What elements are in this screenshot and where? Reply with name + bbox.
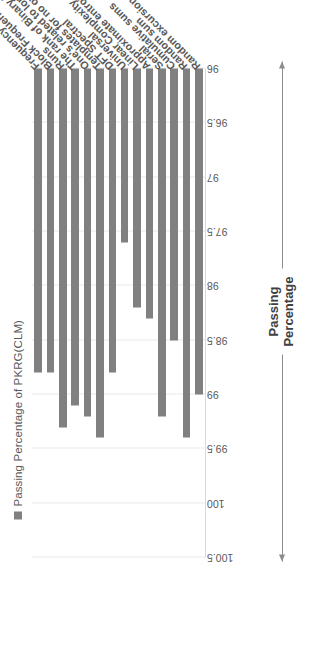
legend-swatch-icon [14,511,22,519]
plot-area [32,68,205,557]
bar [109,68,117,372]
bar [34,68,42,372]
value-axis-tick-label: 100 [207,497,225,509]
value-axis-tick-label: 100.5 [207,551,233,563]
value-axis-tick-label: 99.5 [207,442,227,454]
bar [59,68,67,427]
bar [121,68,129,242]
category-label: Linear Complexity [66,0,141,72]
left-arrow-icon [277,354,287,561]
category-label: The rank of Binary Matrix [0,0,79,72]
bar [146,68,154,318]
value-axis-tick-label: 98.5 [207,334,227,346]
category-label: One's related to long runs [0,0,91,72]
bar [158,68,166,416]
chart-legend: Passing Percentage of PKRG(CLM) [12,319,24,519]
value-axis-tick-label: 97 [207,171,219,183]
legend-label: Passing Percentage of PKRG(CLM) [12,319,24,506]
category-label: Random excursions variant [94,0,203,72]
bar [195,68,203,394]
bar [71,68,79,405]
bar [47,68,55,372]
value-axis-tick-label: 97.5 [207,225,227,237]
bar [183,68,191,437]
axis-title-text: Passing Percentage [267,274,296,348]
bar-chart-figure: Passing Percentage of PKRG(CLM) 100.5100… [4,0,312,669]
category-label: Random sum [133,15,190,72]
value-axis-tick-label: 99 [207,388,219,400]
bar-series [32,68,205,557]
category-label: Approximate entropy [68,0,153,72]
bar [133,68,141,307]
axis-title-group: Passing Percentage [256,61,308,561]
value-axis-tick-labels: 100.510099.59998.59897.59796.596 [207,68,243,557]
value-axis-tick-label: 98 [207,279,219,291]
category-label: Block Frequency [0,2,54,72]
value-axis-tick-label: 96 [207,62,219,74]
bar [84,68,92,416]
right-arrow-icon [277,61,287,268]
bar [96,68,104,437]
category-label: DFT Spectral [60,16,116,72]
bar [170,68,178,340]
category-label: Universal [85,29,128,72]
value-axis-tick-label: 96.5 [207,116,227,128]
value-axis-line [205,68,206,557]
category-label: Cumulative sums [106,0,178,72]
category-label: Frequency [0,25,42,72]
category-label: Templates for no overlapping [0,0,103,72]
rotated-figure-wrapper: Passing Percentage of PKRG(CLM) 100.5100… [4,0,312,669]
